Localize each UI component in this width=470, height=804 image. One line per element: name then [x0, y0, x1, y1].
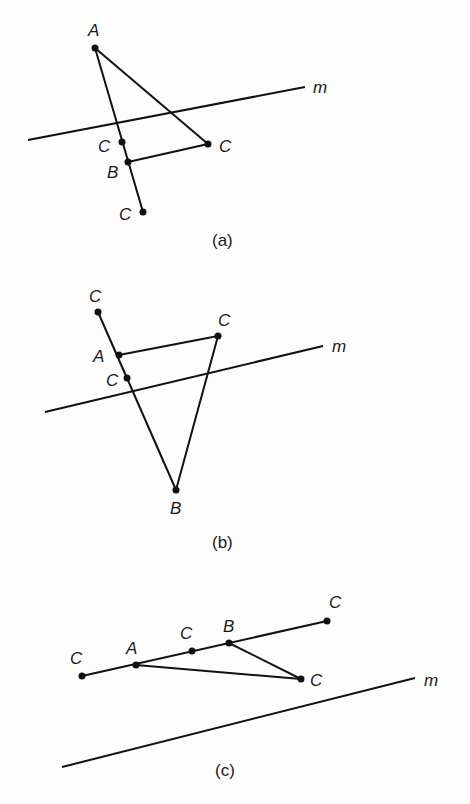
- segment-c-b: [98, 312, 176, 490]
- label-c: C: [310, 671, 323, 690]
- caption-b: (b): [212, 533, 233, 552]
- point-c: [79, 673, 86, 680]
- point-c: [298, 676, 305, 683]
- label-m: m: [424, 671, 438, 690]
- figure-b: C A C C B m (b): [45, 287, 346, 552]
- segment-a-c-right: [95, 48, 208, 144]
- segment-a-c: [119, 336, 218, 355]
- figure-c: C A C B C C m (c): [62, 593, 438, 780]
- point-c: [119, 139, 126, 146]
- point-c: [95, 309, 102, 316]
- label-a: A: [125, 639, 137, 658]
- point-c: [140, 209, 147, 216]
- point-c: [324, 618, 331, 625]
- point-c: [124, 375, 131, 382]
- geometry-figures: A C B C C m (a) C A C C B m (b): [0, 0, 470, 804]
- line-through-a-b: [82, 621, 327, 676]
- label-c: C: [219, 137, 232, 156]
- segment-a-c: [95, 48, 143, 212]
- label-c: C: [329, 593, 342, 612]
- caption-c: (c): [215, 761, 235, 780]
- label-b: B: [107, 163, 118, 182]
- segment-b-c: [128, 144, 208, 162]
- caption-a: (a): [212, 231, 233, 250]
- point-b: [173, 487, 180, 494]
- point-a: [116, 352, 123, 359]
- point-c: [205, 141, 212, 148]
- line-m: [28, 87, 305, 140]
- label-c: C: [98, 137, 111, 156]
- label-c: C: [119, 205, 132, 224]
- point-c: [189, 648, 196, 655]
- label-c: C: [106, 371, 119, 390]
- label-c: C: [218, 311, 231, 330]
- line-m: [62, 678, 415, 767]
- point-b: [226, 640, 233, 647]
- line-m: [45, 346, 323, 412]
- label-m: m: [332, 337, 346, 356]
- label-c: C: [180, 624, 193, 643]
- point-c: [215, 333, 222, 340]
- figure-a: A C B C C m (a): [28, 21, 327, 250]
- segment-c-b-right: [176, 336, 218, 490]
- label-a: A: [87, 21, 99, 40]
- label-b: B: [170, 499, 181, 518]
- label-m: m: [313, 78, 327, 97]
- label-b: B: [223, 617, 234, 636]
- point-b: [125, 159, 132, 166]
- point-a: [133, 662, 140, 669]
- label-c: C: [70, 649, 83, 668]
- label-a: A: [92, 347, 104, 366]
- label-c: C: [89, 287, 102, 306]
- point-a: [92, 45, 99, 52]
